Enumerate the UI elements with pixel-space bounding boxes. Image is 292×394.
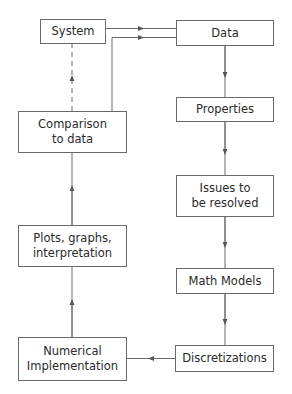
node-math-models: Math Models — [176, 268, 274, 294]
flowchart-diagram: System Data Properties Issues to be reso… — [0, 0, 292, 394]
node-plots-graphs-interpretation: Plots, graphs, interpretation — [18, 225, 127, 267]
node-discretizations: Discretizations — [175, 345, 274, 372]
node-issues-to-be-resolved: Issues to be resolved — [176, 175, 274, 217]
node-properties: Properties — [176, 97, 274, 122]
node-data: Data — [176, 20, 274, 46]
node-numerical-implementation: Numerical Implementation — [18, 337, 127, 381]
node-comparison-to-data: Comparison to data — [18, 111, 127, 153]
node-system: System — [40, 19, 106, 44]
edge-comparison-to-data — [112, 38, 176, 112]
